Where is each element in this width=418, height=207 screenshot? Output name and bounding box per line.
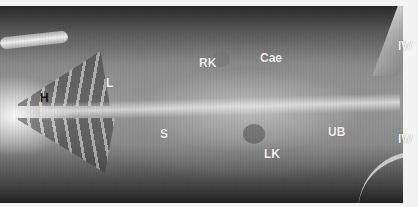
ribcage-lower <box>15 118 115 173</box>
humerus-bone <box>0 30 68 49</box>
ribcage-upper <box>15 51 110 106</box>
label-rk: RK <box>199 57 216 69</box>
pelvis-lower <box>358 151 403 203</box>
label-iw1: IW <box>398 40 413 52</box>
label-l: L <box>106 77 113 89</box>
right-margin <box>403 6 418 203</box>
label-h: H <box>40 92 49 104</box>
label-ub: UB <box>328 126 345 138</box>
label-iw2: IW <box>398 133 413 145</box>
xray-image <box>0 6 403 203</box>
spine <box>40 93 400 120</box>
label-cae: Cae <box>260 52 282 64</box>
label-s: S <box>160 128 168 140</box>
left-kidney-shadow <box>243 124 265 144</box>
label-lk: LK <box>264 148 280 160</box>
radiograph-frame: HLRKCaeSUBLKIWIW <box>0 6 418 203</box>
